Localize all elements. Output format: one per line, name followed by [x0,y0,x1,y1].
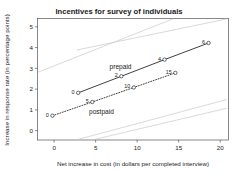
x-tick-label: 15 [175,144,182,151]
background-curve-lower-ref-2 [95,108,227,139]
y-tick-label: 2 [30,85,34,92]
y-tick-label: 3 [30,65,34,72]
y-axis-label: Increase in response rate (in percentage… [3,14,10,145]
y-tick-label: 4 [30,44,34,51]
data-point-label: 4 [158,56,161,62]
data-point-label: 10 [124,83,130,89]
x-tick-label: 5 [94,144,98,151]
background-curve-lower-ref-1 [78,100,227,140]
y-tick-label: 1 [30,106,34,113]
y-tick-label: 5 [30,23,34,30]
data-point-marker [174,71,177,74]
data-point-marker [120,75,123,78]
data-point-marker [91,100,94,103]
data-point-marker [51,114,54,117]
series-label-prepaid: prepaid [110,63,132,71]
data-point-label: 2 [115,72,118,78]
plot-frame [38,19,229,141]
data-series-layer: 0246051015 [46,39,210,118]
background-reference-curves [38,19,227,139]
data-point-marker [163,58,166,61]
x-tick-label: 0 [52,144,56,151]
x-tick-label: 20 [217,144,224,151]
chart-figure: Incentives for survey of individuals Net… [0,0,239,172]
data-point-label: 15 [166,69,172,75]
y-axis-ticks: 012345 [30,23,38,134]
series-label-postpaid: postpaid [89,108,114,116]
background-curve-upper-ref-1 [77,19,227,50]
y-tick-label: 0 [30,127,34,134]
data-point-marker [76,91,79,94]
series-line-prepaid [78,43,208,93]
data-point-label: 0 [72,89,75,95]
x-axis-label: Net increase in cost (in dollars per com… [57,160,209,167]
data-point-label: 5 [86,98,89,104]
data-point-marker [207,41,210,44]
data-point-label: 6 [202,39,205,45]
data-point-marker [132,86,135,89]
x-tick-label: 10 [134,144,141,151]
chart-title: Incentives for survey of individuals [55,7,182,16]
x-axis-ticks: 05101520 [52,140,224,151]
data-point-label: 0 [46,112,49,118]
incentives-line-chart: Incentives for survey of individuals Net… [0,0,239,172]
